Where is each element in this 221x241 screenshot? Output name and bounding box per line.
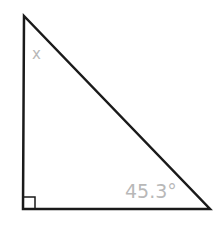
angle-x-label: x xyxy=(32,45,41,63)
angle-value-label: 45.3° xyxy=(125,180,177,202)
triangle-shape xyxy=(23,16,210,209)
right-angle-marker xyxy=(23,197,35,209)
triangle-diagram: x 45.3° xyxy=(0,0,221,241)
